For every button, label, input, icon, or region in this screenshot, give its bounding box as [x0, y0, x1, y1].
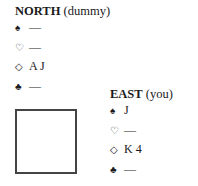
east-clubs-row: ♣—	[110, 160, 173, 180]
diamond-icon: ◇	[15, 57, 29, 77]
north-hand: NORTH (dummy) ♠— ♡— ◇A J ♣—	[15, 4, 110, 96]
north-diamonds-row: ◇A J	[15, 57, 110, 77]
north-spades-cards: —	[29, 20, 41, 34]
east-title: EAST (you)	[110, 87, 173, 101]
spade-icon: ♠	[110, 101, 124, 121]
north-role: (dummy)	[64, 4, 111, 18]
east-name: EAST	[110, 87, 143, 101]
diamond-icon: ◇	[110, 140, 124, 160]
east-diamonds-row: ◇K 4	[110, 140, 173, 160]
north-spades-row: ♠—	[15, 18, 110, 38]
east-hand: EAST (you) ♠J ♡— ◇K 4 ♣—	[110, 87, 173, 179]
north-clubs-row: ♣—	[15, 77, 110, 97]
heart-icon: ♡	[110, 121, 124, 141]
club-icon: ♣	[15, 77, 29, 97]
east-diamonds-cards: K 4	[124, 142, 142, 156]
north-diamonds-cards: A J	[29, 59, 45, 73]
east-spades-cards: J	[124, 103, 129, 117]
north-clubs-cards: —	[29, 79, 41, 93]
east-spades-row: ♠J	[110, 101, 173, 121]
north-hearts-cards: —	[29, 40, 41, 54]
north-name: NORTH	[15, 4, 60, 18]
east-hearts-row: ♡—	[110, 121, 173, 141]
east-hearts-cards: —	[124, 123, 136, 137]
spade-icon: ♠	[15, 18, 29, 38]
card-table-box	[15, 109, 77, 174]
east-clubs-cards: —	[124, 162, 136, 176]
north-hearts-row: ♡—	[15, 38, 110, 58]
club-icon: ♣	[110, 160, 124, 180]
north-title: NORTH (dummy)	[15, 4, 110, 18]
heart-icon: ♡	[15, 38, 29, 58]
east-role: (you)	[146, 87, 173, 101]
